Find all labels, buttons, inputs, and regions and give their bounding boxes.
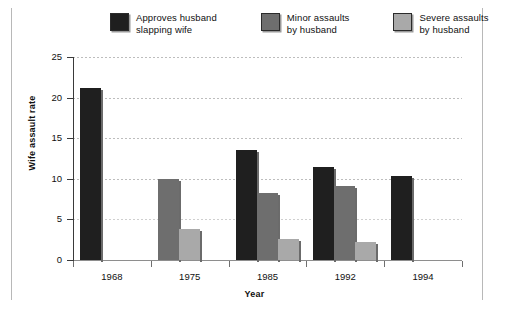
chart-legend: Approves husband slapping wife Minor ass… [110,12,489,35]
bar [313,167,334,260]
x-tick [462,261,463,267]
bar [391,176,412,260]
y-tick-label: 25 [22,52,62,62]
legend-item-severe: Severe assaults by husband [393,12,488,35]
y-tick-label: 10 [22,174,62,184]
frame-border-left [11,8,12,300]
legend-label-minor: Minor assaults by husband [287,12,350,35]
legend-swatch-approves [110,13,129,31]
frame-border-right [482,8,483,300]
x-tick-label: 1968 [82,271,142,282]
legend-swatch-severe [393,13,412,31]
x-axis-line [73,260,462,261]
legend-swatch-minor [261,13,280,31]
x-tick [384,261,385,267]
x-tick [151,261,152,267]
y-tick-label: 5 [22,214,62,224]
x-tick-label: 1994 [393,271,453,282]
y-tick-label: 0 [22,255,62,265]
bar [355,242,376,260]
x-tick [73,261,74,267]
bar [179,229,200,260]
chart-figure: Approves husband slapping wife Minor ass… [0,0,509,313]
x-tick-label: 1992 [315,271,375,282]
x-tick [229,261,230,267]
x-axis-title: Year [0,289,509,299]
legend-item-minor: Minor assaults by husband [261,12,350,35]
bar [80,88,101,260]
bar [236,150,257,260]
x-tick-label: 1975 [160,271,220,282]
x-tick [306,261,307,267]
bar [257,193,278,260]
bar [334,186,355,260]
legend-item-approves: Approves husband slapping wife [110,12,217,35]
x-tick-label: 1985 [238,271,298,282]
y-tick-label: 20 [22,93,62,103]
bar [158,179,179,260]
bar [278,239,299,260]
legend-label-approves: Approves husband slapping wife [136,12,217,35]
legend-label-severe: Severe assaults by husband [419,12,488,35]
bar-group [73,57,462,260]
y-tick-label: 15 [22,133,62,143]
